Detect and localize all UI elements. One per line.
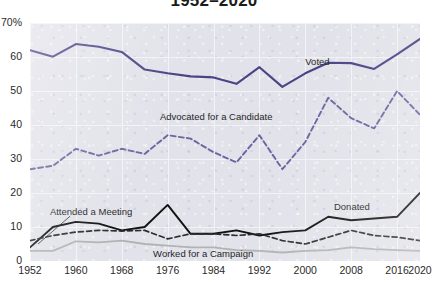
series-line-advocated-for-a-candidate xyxy=(30,91,420,169)
x-tick-1968: 1968 xyxy=(99,264,145,276)
x-tick-2000: 2000 xyxy=(282,264,328,276)
x-tick-2020: 2020 xyxy=(397,264,436,276)
series-label-advocated-for-a-candidate: Advocated for a Candidate xyxy=(160,111,273,122)
y-tick-10: 10 xyxy=(0,220,22,232)
series-label-donated: Donated xyxy=(334,201,370,212)
y-tick-70: 70% xyxy=(0,16,22,28)
y-axis-tick-labels: 70%6050403020100 xyxy=(0,23,26,261)
x-axis-tick-labels: 1952196019681976198419922000200820162020 xyxy=(30,264,420,280)
series-line-voted xyxy=(30,39,420,87)
x-tick-1952: 1952 xyxy=(7,264,53,276)
y-tick-60: 60 xyxy=(0,50,22,62)
x-tick-2008: 2008 xyxy=(328,264,374,276)
plot-area: VotedAdvocated for a CandidateDonatedAtt… xyxy=(30,23,420,261)
series-label-worked-for-a-campaign: Worked for a Campaign xyxy=(153,248,253,259)
x-tick-1992: 1992 xyxy=(236,264,282,276)
x-tick-1984: 1984 xyxy=(191,264,237,276)
y-tick-40: 40 xyxy=(0,118,22,130)
series-lines xyxy=(30,23,420,261)
x-tick-1960: 1960 xyxy=(53,264,99,276)
x-tick-1976: 1976 xyxy=(145,264,191,276)
attended-a-meeting-leader-line xyxy=(38,216,70,244)
y-tick-50: 50 xyxy=(0,84,22,96)
series-label-voted: Voted xyxy=(305,56,329,67)
y-tick-30: 30 xyxy=(0,152,22,164)
y-tick-20: 20 xyxy=(0,186,22,198)
series-label-attended-a-meeting: Attended a Meeting xyxy=(50,206,132,217)
chart-title: 1952–2020 xyxy=(0,0,428,11)
